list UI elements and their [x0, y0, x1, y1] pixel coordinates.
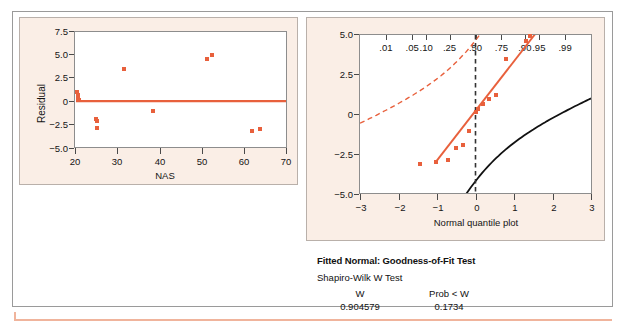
data-point	[504, 57, 508, 61]
data-point	[95, 119, 99, 123]
quantile-curve-layer	[307, 18, 606, 242]
goodness-of-fit-block: Fitted Normal: Goodness-of-Fit Test Shap…	[317, 255, 617, 313]
gof-subtitle: Shapiro-Wilk W Test	[317, 272, 617, 283]
gof-w-header: W	[317, 287, 403, 300]
bottom-horizontal-rule	[14, 319, 612, 321]
data-point	[494, 93, 498, 97]
gof-title: Fitted Normal: Goodness-of-Fit Test	[317, 255, 617, 266]
residual-plot-panel: Residual 7.5 5.0 2.5 0 −2.5 −5.0 20 30 4…	[19, 17, 298, 185]
data-point	[481, 102, 485, 106]
data-point	[524, 39, 528, 43]
top-edge-artifact: · · · · · · · · · · · · · · ·	[0, 0, 627, 8]
artifact-text: · · · · · · · · · · · · · · ·	[0, 0, 138, 4]
page-frame: Residual 7.5 5.0 2.5 0 −2.5 −5.0 20 30 4…	[12, 11, 613, 307]
gof-prob-header: Prob < W	[403, 287, 495, 300]
residual-reference-line-layer	[20, 18, 299, 186]
gof-prob-value: 0.1734	[403, 300, 495, 313]
data-point	[476, 107, 480, 111]
data-point	[205, 57, 209, 61]
data-point	[210, 53, 214, 57]
gof-w-value: 0.904579	[317, 300, 403, 313]
data-point	[151, 109, 155, 113]
data-point	[418, 162, 422, 166]
data-point	[258, 127, 262, 131]
data-point	[528, 34, 532, 38]
gof-value-row: 0.904579 0.1734	[317, 300, 495, 313]
data-point	[487, 97, 491, 101]
data-point	[467, 129, 471, 133]
data-point	[434, 160, 438, 164]
data-point	[95, 126, 99, 130]
data-point	[250, 129, 254, 133]
data-point	[454, 146, 458, 150]
data-point	[446, 158, 450, 162]
gof-header-row: W Prob < W	[317, 287, 495, 300]
data-point	[77, 98, 81, 102]
data-point	[122, 67, 126, 71]
normal-fit-line	[435, 34, 535, 163]
data-point	[461, 143, 465, 147]
gof-table: W Prob < W 0.904579 0.1734	[317, 287, 495, 313]
quantile-plot-panel: 5.0 2.5 0 −2.5 −5.0 −3 −2 −1 0 1 2 3 Nor…	[306, 17, 605, 241]
